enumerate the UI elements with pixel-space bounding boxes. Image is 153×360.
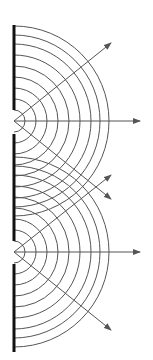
lower-slit-ray-down-arrow-icon bbox=[14, 252, 111, 330]
upper-slit-ray-up-arrow-icon bbox=[14, 43, 111, 121]
lower-slit-ray-up-arrow-icon bbox=[14, 175, 111, 252]
ray-arrows bbox=[14, 43, 140, 330]
double-slit-diagram bbox=[0, 0, 153, 360]
